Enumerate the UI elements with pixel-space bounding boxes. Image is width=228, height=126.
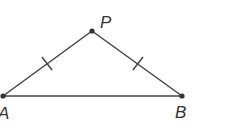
- label-p: P: [100, 13, 112, 32]
- vertex-points: [0, 28, 184, 98]
- congruence-tick-marks: [42, 57, 143, 70]
- point-a: [0, 93, 5, 98]
- segment-pb: [92, 31, 182, 96]
- point-b: [179, 93, 184, 98]
- label-b: B: [175, 103, 186, 122]
- point-p: [89, 28, 94, 33]
- triangle-sides: [3, 31, 182, 96]
- label-a: A: [0, 104, 9, 123]
- tick-mark-ap: [42, 57, 52, 70]
- triangle-diagram: P A B: [0, 0, 228, 126]
- tick-mark-pb: [133, 57, 143, 70]
